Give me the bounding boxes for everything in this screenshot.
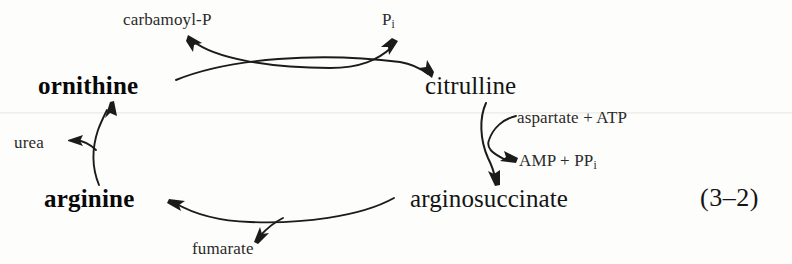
label-fumarate: fumarate	[192, 240, 254, 257]
label-pi-main: P	[382, 10, 392, 29]
arrowhead-fumarate	[254, 227, 269, 244]
arrow-ornithine-to-citrulline	[176, 57, 428, 80]
arrowhead-pi	[381, 38, 398, 55]
arrow-citrulline-to-arginosuccinate	[481, 103, 495, 178]
arrowhead-carbamoyl-p	[186, 35, 202, 52]
node-ornithine: ornithine	[38, 73, 138, 98]
node-arginosuccinate: arginosuccinate	[410, 186, 568, 211]
label-aspartate-atp: aspartate + ATP	[517, 109, 627, 126]
equation-number: (3–2)	[700, 185, 759, 211]
arrowhead-amp-ppi	[500, 151, 518, 163]
node-arginine: arginine	[44, 186, 135, 211]
arrowhead-arginosuccinate	[488, 170, 500, 186]
arrow-arginine-to-ornithine	[94, 110, 107, 185]
label-pi-subscript: i	[392, 18, 395, 31]
arrow-aspartate-to-amp	[488, 116, 516, 159]
arrow-arginosuccinate-to-arginine	[175, 198, 394, 222]
scan-artifact-line	[0, 113, 792, 114]
label-pi: Pi	[382, 11, 395, 31]
label-amp-ppi: AMP + PPi	[519, 152, 597, 172]
node-citrulline: citrulline	[425, 73, 516, 98]
label-amp-subscript: i	[593, 159, 596, 172]
urea-cycle-figure: carbamoyl-P Pi ornithine citrulline aspa…	[0, 0, 792, 264]
arrow-carbamoylp-to-pi	[193, 41, 392, 68]
reaction-arrow-layer	[0, 0, 792, 264]
label-amp-main: AMP + PP	[519, 151, 593, 170]
arrowhead-arginine	[167, 199, 185, 211]
label-urea: urea	[14, 134, 44, 151]
arrowhead-urea	[68, 135, 83, 146]
arrow-to-urea	[76, 140, 96, 150]
arrowhead-ornithine	[105, 101, 117, 118]
label-carbamoyl-p: carbamoyl-P	[123, 11, 212, 28]
arrow-to-fumarate	[260, 218, 283, 236]
